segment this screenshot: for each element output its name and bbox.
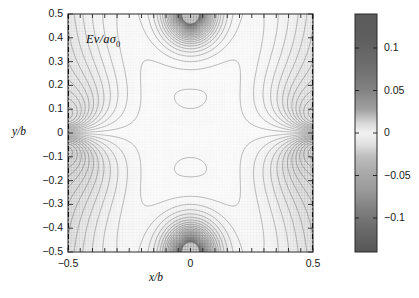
colorbar-tick-label: 0: [384, 126, 390, 138]
colorbar-tick-label: 0.05: [384, 84, 404, 96]
x-tick-label: −0.5: [55, 257, 81, 269]
annotation-subscript: 0: [116, 39, 120, 49]
contour-field: [68, 14, 314, 253]
y-axis-title: y/b: [12, 125, 26, 137]
contour-figure: Ev/aσ0 x/b y/b −0.500.5 −0.5−0.4−0.3−0.2…: [0, 0, 419, 298]
y-tick-label: −0.2: [26, 174, 63, 186]
y-tick-label: −0.1: [26, 150, 63, 162]
x-tick-label: 0: [178, 257, 204, 269]
colorbar-tick-label: −0.1: [384, 211, 405, 223]
y-tick-label: 0.2: [26, 78, 63, 90]
colorbar-tick-label: 0.1: [384, 41, 399, 53]
y-tick-label: 0.3: [26, 55, 63, 67]
quantity-annotation: Ev/aσ0: [86, 32, 121, 49]
x-axis-title: x/b: [149, 271, 163, 283]
y-tick-label: −0.4: [26, 221, 63, 233]
y-tick-label: 0.5: [26, 7, 63, 19]
colorbar-tick-label: −0.05: [384, 169, 411, 181]
y-tick-label: 0.4: [26, 31, 63, 43]
annotation-main: Ev/a: [86, 32, 110, 46]
x-tick-label: 0.5: [300, 257, 326, 269]
y-tick-label: 0.1: [26, 102, 63, 114]
y-tick-label: −0.5: [26, 245, 63, 257]
y-tick-label: 0: [26, 126, 63, 138]
y-tick-label: −0.3: [26, 197, 63, 209]
